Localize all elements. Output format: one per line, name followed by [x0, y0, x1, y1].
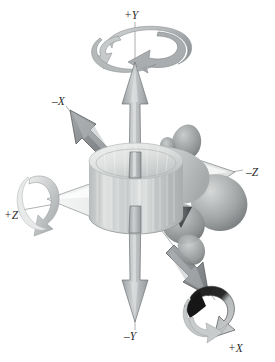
coordinate-diagram-svg: +Y –Y –X +X +Z –Z [0, 0, 275, 362]
arrow-minus-y-overlay [129, 206, 141, 233]
axis-label-plus-y: +Y [124, 9, 140, 21]
axis-label-plus-x: +X [228, 342, 244, 354]
arrow-plus-y-highlight [133, 152, 136, 176]
figure-canvas: +Y –Y –X +X +Z –Z [0, 0, 275, 362]
axis-label-minus-x: –X [51, 95, 66, 107]
axis-label-minus-z: –Z [245, 166, 259, 178]
axis-label-minus-y: –Y [123, 330, 138, 342]
axis-label-plus-z: +Z [4, 209, 19, 221]
